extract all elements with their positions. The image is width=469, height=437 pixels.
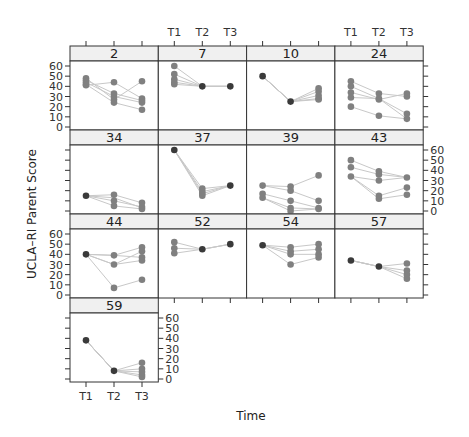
data-point — [404, 174, 411, 181]
panel-39: 39 — [247, 130, 335, 214]
data-point — [376, 263, 383, 270]
panel-34: 34 — [70, 130, 158, 214]
strip-label: 44 — [106, 214, 123, 229]
data-point — [83, 337, 90, 344]
data-point — [111, 99, 118, 106]
data-point — [111, 285, 118, 292]
strip-label: 39 — [282, 130, 299, 145]
x-tick-label: T3 — [399, 26, 414, 39]
data-point — [287, 198, 294, 205]
data-point — [348, 257, 355, 264]
panel-44: 44 — [70, 214, 158, 298]
data-point — [83, 82, 90, 89]
data-point — [139, 257, 146, 264]
data-point — [259, 73, 266, 80]
strip-label: 59 — [106, 298, 123, 313]
data-point — [139, 276, 146, 283]
y-tick-label: 60 — [49, 60, 63, 73]
x-tick-label: T3 — [222, 26, 237, 39]
data-point — [199, 83, 206, 90]
panel-52: 52 — [158, 214, 246, 298]
data-point — [111, 368, 118, 375]
data-point — [111, 261, 118, 268]
data-point — [227, 241, 234, 248]
panel-area — [158, 229, 246, 298]
panel-area — [158, 61, 246, 130]
x-tick-label: T1 — [166, 26, 181, 39]
data-point — [376, 96, 383, 103]
panel-37: 37 — [158, 130, 246, 214]
strip-label: 34 — [106, 130, 123, 145]
strip-label: 7 — [198, 46, 206, 61]
panel-area — [158, 145, 246, 214]
data-point — [404, 93, 411, 100]
x-tick-label: T2 — [106, 390, 121, 403]
data-point — [404, 191, 411, 198]
panel-43: 43 — [335, 130, 423, 214]
x-tick-label: T3 — [134, 390, 149, 403]
data-point — [139, 374, 146, 381]
y-tick-label: 60 — [49, 228, 63, 241]
data-point — [139, 359, 146, 366]
data-point — [227, 83, 234, 90]
data-point — [139, 248, 146, 255]
data-point — [227, 182, 234, 189]
data-point — [287, 187, 294, 194]
data-point — [404, 184, 411, 191]
data-point — [376, 113, 383, 120]
data-point — [139, 106, 146, 113]
y-axis-title: UCLA–RI Parent Score — [25, 149, 39, 279]
data-point — [404, 275, 411, 282]
strip-label: 2 — [110, 46, 118, 61]
panel-2: 2 — [70, 46, 158, 130]
data-point — [348, 83, 355, 90]
panel-7: 7 — [158, 46, 246, 130]
strip-label: 24 — [371, 46, 388, 61]
data-point — [348, 164, 355, 171]
strip-label: 54 — [282, 214, 299, 229]
data-point — [139, 206, 146, 213]
x-tick-label: T1 — [78, 390, 93, 403]
lattice-chart: 271024343739434452545759 010203040506001… — [0, 0, 469, 437]
panel-54: 54 — [247, 214, 335, 298]
panel-10: 10 — [247, 46, 335, 130]
y-tick-label: 60 — [165, 312, 179, 325]
strip-label: 52 — [194, 214, 211, 229]
y-tick-label: 60 — [430, 144, 444, 157]
data-point — [287, 261, 294, 268]
data-point — [376, 171, 383, 178]
data-point — [376, 177, 383, 184]
data-point — [404, 260, 411, 267]
panel-59: 59 — [70, 298, 158, 382]
x-axis-title: Time — [235, 409, 265, 423]
data-point — [111, 79, 118, 86]
x-tick-label: T2 — [194, 26, 209, 39]
data-point — [348, 94, 355, 101]
data-point — [199, 192, 206, 199]
panel-24: 24 — [335, 46, 423, 130]
data-point — [111, 191, 118, 198]
data-point — [259, 194, 266, 201]
data-point — [171, 250, 178, 257]
data-point — [139, 78, 146, 85]
data-point — [404, 116, 411, 123]
data-point — [287, 251, 294, 258]
data-point — [259, 242, 266, 249]
data-point — [376, 196, 383, 203]
data-point — [139, 99, 146, 106]
data-point — [287, 98, 294, 105]
panel-57: 57 — [335, 214, 423, 298]
data-point — [315, 96, 322, 103]
data-point — [315, 206, 322, 213]
data-point — [348, 103, 355, 110]
data-point — [111, 203, 118, 210]
data-point — [315, 172, 322, 179]
strip-label: 57 — [371, 214, 388, 229]
data-point — [171, 81, 178, 88]
x-tick-label: T1 — [343, 26, 358, 39]
strip-label: 37 — [194, 130, 211, 145]
data-point — [171, 147, 178, 154]
panels-group: 271024343739434452545759 — [70, 46, 423, 382]
data-point — [259, 182, 266, 189]
data-point — [171, 63, 178, 70]
